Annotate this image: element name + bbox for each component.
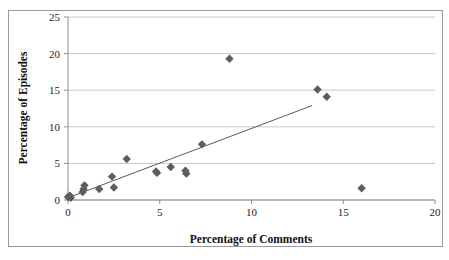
y-tick-label: 25 [49,11,61,23]
x-tick-label: 0 [65,206,71,218]
scatter-chart: 05101520 0510152025 Percentage of Commen… [0,0,449,260]
y-axis-title: Percentage of Episodes [17,51,30,164]
y-tick-label: 10 [49,121,61,133]
y-tick-label: 5 [55,157,61,169]
x-tick-label: 10 [246,206,258,218]
y-tick-label: 20 [49,48,61,60]
y-axis-tick-labels: 0510152025 [49,11,61,206]
x-axis-title: Percentage of Comments [190,233,313,246]
x-axis-tick-labels: 05101520 [65,206,441,218]
x-tick-label: 20 [430,206,442,218]
y-tick-label: 0 [55,194,61,206]
x-tick-label: 5 [157,206,163,218]
y-tick-label: 15 [49,84,61,96]
plot-area [68,17,435,200]
x-tick-label: 15 [338,206,350,218]
